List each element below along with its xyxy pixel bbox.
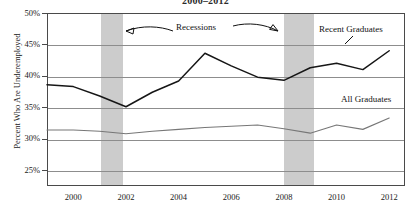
- x-tick-label: 2000: [53, 192, 93, 202]
- annotation-recent-graduates: Recent Graduates: [319, 24, 383, 34]
- series-all-graduates: [47, 118, 389, 134]
- recent-graduates-leader-line: [345, 36, 353, 44]
- x-tick-label: 2012: [369, 192, 409, 202]
- x-tick-label: 2004: [159, 192, 199, 202]
- x-tick-label: 2008: [264, 192, 304, 202]
- x-tick-label: 2002: [106, 192, 146, 202]
- annotation-all-graduates: All Graduates: [341, 94, 391, 104]
- annotation-recessions: Recessions: [176, 22, 216, 32]
- chart-page: 2000–2012 Percent Who Are Underemployed …: [0, 0, 411, 216]
- x-tick-label: 2006: [211, 192, 251, 202]
- series-recent-graduates: [47, 51, 389, 107]
- x-tick-label: 2010: [317, 192, 357, 202]
